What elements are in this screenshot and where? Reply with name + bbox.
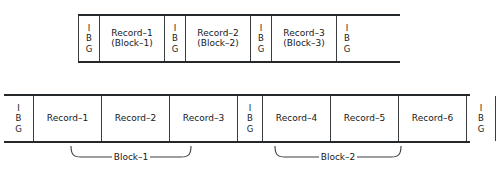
blocked-records-tape: I B G Record–1 Record–2 Record–3 I B G R… <box>4 94 470 143</box>
record-cell: Record–5 <box>330 96 399 141</box>
ibg-letter-g: G <box>478 124 485 134</box>
ibg-letter-i: I <box>480 103 483 113</box>
record-label: Record–4 <box>276 114 317 124</box>
record-block-cell: Record–3 (Block–3) <box>271 16 337 61</box>
ibg-letter-i: I <box>174 23 177 33</box>
record-label: Record–2 <box>115 114 156 124</box>
record-cell: Record–1 <box>33 96 102 141</box>
record-block-cell: Record–2 (Block–2) <box>185 16 251 61</box>
record-cell: Record–3 <box>169 96 238 141</box>
block-label: (Block–1) <box>111 39 153 49</box>
block-label: (Block–2) <box>197 39 239 49</box>
ibg-letter-g: G <box>86 44 93 54</box>
ibg-letter-b: B <box>172 33 178 43</box>
block-1-brace: Block–1 <box>70 145 192 169</box>
ibg-letter-g: G <box>344 44 351 54</box>
record-block-cell: Record–1 (Block–1) <box>99 16 165 61</box>
record-label: Record–5 <box>344 114 385 124</box>
record-cell: Record–6 <box>398 96 467 141</box>
block-2-brace: Block–2 <box>274 145 402 169</box>
record-cell: Record–4 <box>262 96 331 141</box>
ibg-letter-b: B <box>258 33 264 43</box>
block-label: (Block–3) <box>283 39 325 49</box>
ibg-cell: I B G <box>164 16 186 61</box>
tape-continuation <box>357 16 401 61</box>
ibg-letter-i: I <box>249 103 252 113</box>
record-label: Record–6 <box>412 114 453 124</box>
ibg-letter-i: I <box>17 103 20 113</box>
brace-label: Block–2 <box>319 153 358 162</box>
record-label: Record–3 <box>183 114 224 124</box>
ibg-letter-b: B <box>86 33 92 43</box>
ibg-letter-b: B <box>478 113 484 123</box>
record-label: Record–1 <box>47 114 88 124</box>
ibg-letter-g: G <box>247 124 254 134</box>
record-cell: Record–2 <box>101 96 170 141</box>
ibg-cell: I B G <box>78 16 100 61</box>
ibg-cell: I B G <box>250 16 272 61</box>
ibg-cell: I B G <box>4 96 34 141</box>
ibg-letter-b: B <box>247 113 253 123</box>
ibg-letter-i: I <box>88 23 91 33</box>
ibg-letter-g: G <box>258 44 265 54</box>
ibg-letter-g: G <box>172 44 179 54</box>
ibg-letter-i: I <box>346 23 349 33</box>
brace-label: Block–1 <box>112 153 151 162</box>
ibg-letter-i: I <box>260 23 263 33</box>
ibg-letter-g: G <box>15 124 22 134</box>
unblocked-records-tape: I B G Record–1 (Block–1) I B G Record–2 … <box>78 14 400 63</box>
ibg-cell: I B G <box>237 96 263 141</box>
ibg-letter-b: B <box>344 33 350 43</box>
ibg-cell: I B G <box>336 16 358 61</box>
ibg-cell: I B G <box>466 96 496 141</box>
ibg-letter-b: B <box>16 113 22 123</box>
